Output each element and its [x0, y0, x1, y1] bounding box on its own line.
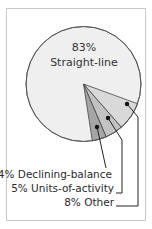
label-other: 8% Other [64, 196, 114, 208]
label-straight-line-pct: 83% [44, 40, 124, 55]
label-straight-line-name: Straight-line [44, 55, 124, 70]
pie-chart [0, 0, 152, 229]
label-straight-line: 83% Straight-line [44, 40, 124, 70]
label-units-of-activity: 5% Units-of-activity [11, 182, 114, 194]
label-declining-balance: 4% Declining-balance [0, 168, 112, 180]
